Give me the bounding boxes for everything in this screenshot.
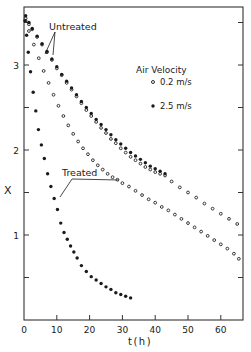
data-point (129, 296, 132, 299)
data-point (237, 257, 240, 260)
data-point (25, 34, 28, 37)
data-point (134, 159, 137, 162)
data-point (219, 243, 222, 246)
data-point (49, 185, 52, 188)
x-tick-label: 50 (182, 325, 194, 335)
data-point (144, 166, 147, 169)
data-point (50, 57, 53, 60)
x-tick-label: 40 (149, 325, 161, 335)
data-point (180, 217, 183, 220)
data-point (46, 172, 49, 175)
data-point (27, 21, 30, 24)
data-point (29, 70, 32, 73)
data-point (141, 194, 144, 197)
data-point (187, 222, 190, 225)
data-point (104, 285, 107, 288)
plot-border (24, 7, 243, 320)
data-point (101, 168, 104, 171)
data-point (106, 172, 109, 175)
data-point (167, 209, 170, 212)
data-point (32, 43, 35, 46)
data-point (75, 256, 78, 259)
data-point (206, 234, 209, 237)
axis-ticks: 0102030405060123 (13, 23, 243, 336)
data-point (110, 138, 113, 141)
y-tick-label: 1 (13, 231, 19, 241)
data-point (69, 244, 72, 247)
data-point (99, 123, 102, 126)
data-point (119, 293, 122, 296)
x-axis-label: t(h) (128, 336, 152, 347)
data-point (62, 115, 65, 118)
data-point (35, 34, 38, 37)
data-point (154, 201, 157, 204)
data-point (147, 198, 150, 201)
data-point (114, 138, 117, 141)
data-point (43, 157, 46, 160)
data-point (104, 128, 107, 131)
data-point (59, 221, 62, 224)
data-point (124, 151, 127, 154)
data-point (90, 112, 93, 115)
x-tick-label: 30 (117, 325, 129, 335)
data-point (213, 239, 216, 242)
data-point (90, 275, 93, 278)
legend-open-label: 0.2 m/s (160, 77, 192, 87)
data-point (119, 147, 122, 150)
data-point (154, 167, 157, 170)
y-axis-label: X (4, 184, 12, 197)
data-point (203, 202, 206, 205)
data-point (85, 270, 88, 273)
data-point (109, 133, 112, 136)
data-point (65, 79, 68, 82)
data-point (105, 132, 108, 135)
data-point (52, 93, 55, 96)
data-point (100, 127, 103, 130)
data-point (72, 250, 75, 253)
data-point (129, 155, 132, 158)
series-treated-0-2-m-s (24, 19, 240, 260)
data-point (40, 143, 43, 146)
data-point (87, 153, 90, 156)
data-point (134, 189, 137, 192)
legend-open-marker-icon (152, 81, 155, 84)
legend-title: Air Velocity (136, 65, 187, 75)
data-point (34, 109, 37, 112)
data-point (134, 154, 137, 157)
data-point (129, 151, 132, 154)
data-point (144, 161, 147, 164)
x-tick-label: 60 (215, 325, 227, 335)
plot-frame (24, 7, 243, 320)
data-point (173, 213, 176, 216)
y-tick-label: 3 (13, 61, 19, 71)
data-point (37, 57, 40, 60)
data-point (99, 282, 102, 285)
data-point (236, 223, 239, 226)
data-point (80, 100, 83, 103)
data-point (149, 168, 152, 171)
data-point (56, 208, 59, 211)
data-point (94, 278, 97, 281)
data-point (109, 288, 112, 291)
data-point (28, 30, 31, 33)
series-untreated-0-2-m-s (24, 17, 238, 226)
data-point (139, 162, 142, 165)
data-point (233, 252, 236, 255)
data-point (200, 230, 203, 233)
legend-filled-label: 2.5 m/s (160, 101, 192, 111)
data-point (121, 182, 124, 185)
x-tick-label: 20 (84, 325, 96, 335)
treated-label: Treated (61, 167, 97, 178)
data-point (158, 170, 161, 173)
data-point (42, 70, 45, 73)
data-point (52, 197, 55, 200)
data-point (91, 159, 94, 162)
data-point (114, 291, 117, 294)
data-point (31, 91, 34, 94)
x-tick-label: 0 (21, 325, 27, 335)
data-point (228, 217, 231, 220)
data-point (31, 27, 34, 30)
series-treated-2-5-m-s (23, 19, 132, 299)
data-point (67, 124, 70, 127)
data-point (75, 93, 78, 96)
